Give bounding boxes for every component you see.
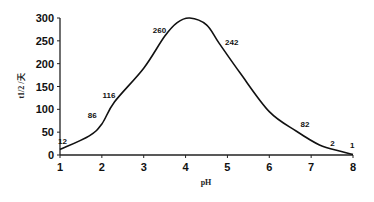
x-tick-label: 7 — [308, 161, 314, 173]
point-label: 2 — [330, 139, 335, 148]
y-axis-title: t1/2 /天 — [17, 72, 26, 98]
y-tick-label: 100 — [36, 103, 54, 115]
y-axis: 050100150200250300 — [36, 12, 60, 161]
y-tick-label: 50 — [42, 126, 54, 138]
x-tick-label: 8 — [350, 161, 356, 173]
series-line — [60, 18, 353, 155]
point-label: 1 — [350, 141, 355, 150]
y-tick-label: 150 — [36, 81, 54, 93]
line-chart: 050100150200250300 12345678 128611626024… — [0, 0, 374, 202]
point-label: 86 — [88, 111, 97, 120]
x-axis: 12345678 — [57, 155, 356, 173]
x-axis-title: pH — [201, 178, 212, 187]
x-tick-label: 1 — [57, 161, 63, 173]
point-labels: 12861162602428221 — [58, 26, 355, 149]
point-label: 260 — [153, 26, 167, 35]
y-tick-label: 250 — [36, 35, 54, 47]
x-tick-label: 4 — [183, 161, 190, 173]
y-tick-label: 0 — [48, 149, 54, 161]
x-tick-label: 5 — [224, 161, 230, 173]
y-tick-label: 300 — [36, 12, 54, 24]
x-tick-label: 6 — [266, 161, 272, 173]
x-tick-label: 2 — [99, 161, 105, 173]
point-label: 242 — [225, 38, 239, 47]
y-tick-label: 200 — [36, 58, 54, 70]
x-tick-label: 3 — [141, 161, 147, 173]
point-label: 82 — [300, 120, 309, 129]
point-label: 116 — [103, 91, 116, 100]
point-label: 12 — [58, 137, 67, 146]
